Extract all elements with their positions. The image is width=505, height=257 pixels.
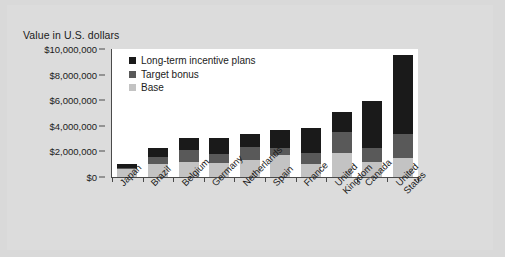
y-axis-tick-mark <box>99 177 105 178</box>
segment-long-term-incentive-plans <box>393 55 413 134</box>
segment-target-bonus <box>179 150 199 162</box>
segment-target-bonus <box>332 132 352 153</box>
chart-frame: Value in U.S. dollars $0$2,000,000$4,000… <box>7 5 493 250</box>
legend-item-label: Base <box>141 82 164 93</box>
segment-long-term-incentive-plans <box>362 101 382 148</box>
segment-long-term-incentive-plans <box>301 128 321 153</box>
chart-screenshot: Value in U.S. dollars $0$2,000,000$4,000… <box>0 0 505 257</box>
swatch-long-term-incentive-plans <box>129 57 136 64</box>
segment-target-bonus <box>393 134 413 158</box>
x-axis-category-labels: JapanBrazilBelgiumGermanyNetherlandsSpai… <box>111 181 431 251</box>
y-axis-tick-mark <box>99 74 105 75</box>
segment-long-term-incentive-plans <box>270 130 290 148</box>
y-axis-tick-label: $8,000,000 <box>49 69 97 80</box>
segment-long-term-incentive-plans <box>240 134 260 147</box>
segment-long-term-incentive-plans <box>179 138 199 150</box>
chart-legend: Long-term incentive plansTarget bonusBas… <box>129 55 329 96</box>
swatch-target-bonus <box>129 71 136 78</box>
y-axis-tick-labels: $0$2,000,000$4,000,000$6,000,000$8,000,0… <box>7 49 105 177</box>
y-axis-tick-label: $10,000,000 <box>44 44 97 55</box>
y-axis-tick-label: $2,000,000 <box>49 146 97 157</box>
legend-item-label: Long-term incentive plans <box>141 55 256 66</box>
y-axis-tick-label: $6,000,000 <box>49 95 97 106</box>
legend-item-label: Target bonus <box>141 69 199 80</box>
segment-long-term-incentive-plans <box>332 112 352 132</box>
swatch-base <box>129 84 136 91</box>
y-axis-tick-mark <box>99 151 105 152</box>
segment-long-term-incentive-plans <box>209 138 229 154</box>
y-axis-tick-mark <box>99 125 105 126</box>
legend-item[interactable]: Target bonus <box>129 69 329 80</box>
segment-long-term-incentive-plans <box>148 148 168 157</box>
bar-united-states[interactable] <box>393 55 413 177</box>
legend-item[interactable]: Long-term incentive plans <box>129 55 329 66</box>
y-axis-tick-label: $4,000,000 <box>49 120 97 131</box>
y-axis-tick-mark <box>99 49 105 50</box>
y-axis-tick-mark <box>99 100 105 101</box>
legend-item[interactable]: Base <box>129 82 329 93</box>
y-axis-tick-label: $0 <box>86 172 97 183</box>
y-axis-title: Value in U.S. dollars <box>23 29 119 41</box>
